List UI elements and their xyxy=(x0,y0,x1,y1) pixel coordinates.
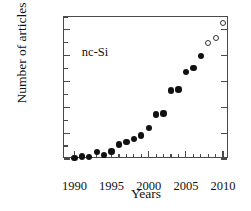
y-axis-tick-right xyxy=(221,81,227,82)
y-axis-minor-tick xyxy=(64,68,68,69)
x-axis-minor-tick xyxy=(133,154,134,158)
x-axis-minor-tick xyxy=(163,154,164,158)
data-point xyxy=(71,155,77,161)
x-axis-minor-tick xyxy=(118,154,119,158)
y-axis-title: Number of articles xyxy=(14,0,30,118)
data-point xyxy=(183,69,189,75)
data-point xyxy=(153,111,159,117)
x-axis-tick xyxy=(222,151,223,157)
data-point xyxy=(220,20,226,26)
y-axis-tick xyxy=(64,107,70,108)
y-axis-tick xyxy=(64,55,70,56)
y-axis-minor-tick xyxy=(64,42,68,43)
data-point xyxy=(168,87,174,93)
y-axis-tick-right xyxy=(221,158,227,159)
chart-figure: Number of articles Years nc-Si 020040060… xyxy=(0,0,251,211)
y-axis-tick xyxy=(64,29,70,30)
data-point xyxy=(79,153,85,159)
x-axis-minor-tick xyxy=(178,154,179,158)
data-point xyxy=(94,149,100,155)
x-axis-minor-tick xyxy=(208,154,209,158)
y-axis-minor-tick xyxy=(64,16,68,17)
data-point xyxy=(131,136,137,142)
data-point xyxy=(108,148,114,154)
data-point xyxy=(138,132,144,138)
data-point xyxy=(86,154,92,160)
y-axis-tick xyxy=(64,133,70,134)
data-point xyxy=(160,110,166,116)
y-axis-minor-tick xyxy=(64,145,68,146)
data-point xyxy=(205,40,211,46)
data-point xyxy=(116,141,122,147)
series-annotation-label: nc-Si xyxy=(82,45,108,60)
data-point xyxy=(213,35,219,41)
y-axis-minor-tick xyxy=(64,94,68,95)
data-point xyxy=(175,86,181,92)
x-axis-minor-tick xyxy=(193,154,194,158)
data-point xyxy=(101,152,107,158)
x-axis-tick-label: 2010 xyxy=(201,180,245,193)
y-axis-tick-right xyxy=(221,55,227,56)
x-axis-tick xyxy=(185,151,186,157)
data-point xyxy=(198,53,204,59)
y-axis-minor-tick xyxy=(64,120,68,121)
x-axis-minor-tick xyxy=(200,154,201,158)
x-axis-minor-tick xyxy=(215,154,216,158)
y-axis-tick xyxy=(64,81,70,82)
x-axis-minor-tick xyxy=(126,154,127,158)
x-axis-tick xyxy=(148,151,149,157)
y-axis-tick-right xyxy=(221,107,227,108)
plot-area: nc-Si 0200400600800100019901995200020052… xyxy=(63,16,228,158)
x-axis-minor-tick xyxy=(141,154,142,158)
data-point xyxy=(123,139,129,145)
y-axis-tick xyxy=(64,158,70,159)
y-axis-tick-right xyxy=(221,29,227,30)
y-axis-tick-right xyxy=(221,133,227,134)
x-axis-minor-tick xyxy=(156,154,157,158)
data-point xyxy=(190,65,196,71)
x-axis-minor-tick xyxy=(170,154,171,158)
data-point xyxy=(146,125,152,131)
